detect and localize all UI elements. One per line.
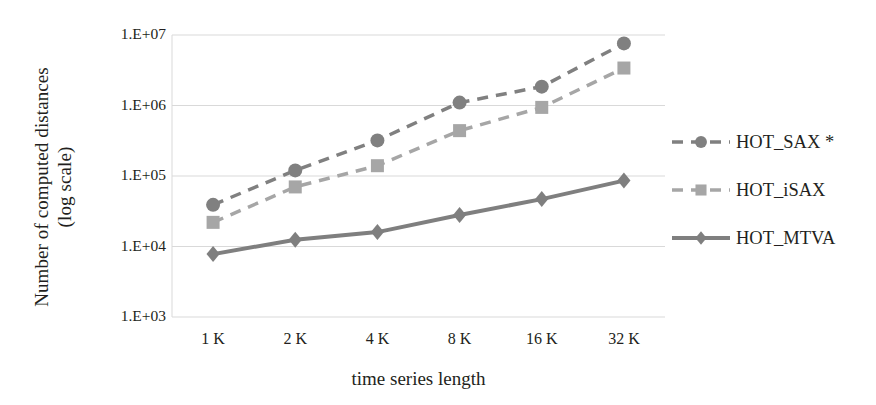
series-line (213, 181, 624, 254)
series-hot-mtva (207, 173, 631, 262)
marker-diamond (695, 231, 706, 245)
legend-label: HOT_MTVA (730, 228, 835, 249)
series-line (213, 68, 624, 222)
marker-square (371, 159, 384, 172)
x-axis-tick-label: 32 K (608, 330, 640, 348)
legend-marker-square-icon (672, 179, 730, 201)
marker-diamond (453, 207, 466, 223)
x-axis-tick-label: 2 K (283, 330, 307, 348)
legend-marker-diamond-icon (672, 227, 730, 249)
legend-item[interactable]: HOT_SAX * (672, 118, 876, 166)
x-axis-tick-label: 1 K (201, 330, 225, 348)
marker-square (207, 216, 220, 229)
series-hot-sax- (206, 36, 631, 211)
marker-circle (453, 96, 467, 110)
legend-item[interactable]: HOT_iSAX (672, 166, 876, 214)
legend-label: HOT_iSAX (730, 180, 825, 201)
marker-square (695, 184, 706, 195)
legend-item[interactable]: HOT_MTVA (672, 214, 876, 262)
marker-diamond (535, 191, 548, 207)
marker-square (535, 101, 548, 114)
x-axis-tick-label: 16 K (526, 330, 558, 348)
legend-marker-circle-icon (672, 131, 730, 153)
marker-circle (370, 133, 384, 147)
x-axis-tick-label: 8 K (448, 330, 472, 348)
marker-square (289, 180, 302, 193)
marker-diamond (371, 224, 384, 240)
marker-square (453, 124, 466, 137)
marker-diamond (289, 232, 302, 248)
x-axis-title: time series length (172, 368, 665, 390)
x-axis-tick-label: 4 K (366, 330, 390, 348)
marker-circle (535, 80, 549, 94)
chart-legend: HOT_SAX *HOT_iSAXHOT_MTVA (672, 118, 876, 262)
series-hot-isax (207, 62, 631, 229)
chart-figure: Number of computed distances (log scale)… (0, 0, 876, 405)
series-line (213, 43, 624, 204)
marker-circle (617, 36, 631, 50)
marker-diamond (207, 246, 220, 262)
legend-label: HOT_SAX * (730, 132, 834, 153)
marker-circle (206, 198, 220, 212)
gridlines (172, 35, 665, 317)
marker-circle (695, 136, 707, 148)
marker-diamond (617, 173, 630, 189)
marker-square (617, 62, 630, 75)
marker-circle (288, 163, 302, 177)
